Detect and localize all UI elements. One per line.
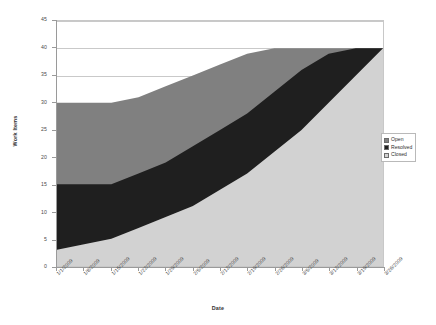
y-axis-tick-label: 45 xyxy=(7,17,47,22)
y-axis-tick-label: 15 xyxy=(7,182,47,187)
y-axis-tick xyxy=(52,75,56,76)
plot-area xyxy=(56,20,384,267)
y-axis-title: Work Items xyxy=(12,101,18,161)
y-axis-tick-label: 0 xyxy=(7,264,47,269)
chart-legend: OpenResolvedClosed xyxy=(381,133,416,162)
x-axis-tick-label: 3/26/2009 xyxy=(383,255,404,276)
legend-swatch-icon xyxy=(384,145,389,150)
y-axis-tick xyxy=(52,212,56,213)
y-axis-tick xyxy=(52,240,56,241)
legend-item-label: Open xyxy=(391,137,403,142)
legend-item-label: Closed xyxy=(391,152,407,157)
y-axis-tick-label: 5 xyxy=(7,237,47,242)
y-axis-tick xyxy=(52,102,56,103)
legend-swatch-icon xyxy=(384,138,389,143)
legend-item[interactable]: Closed xyxy=(384,152,412,159)
legend-item[interactable]: Resolved xyxy=(384,144,412,151)
stacked-area-series xyxy=(57,21,383,266)
y-axis-tick xyxy=(52,20,56,21)
y-axis-tick-label: 35 xyxy=(7,72,47,77)
y-axis-line xyxy=(56,20,57,268)
x-axis-title: Date xyxy=(0,305,436,311)
y-axis-tick xyxy=(52,47,56,48)
y-axis-tick xyxy=(52,185,56,186)
legend-item-label: Resolved xyxy=(391,145,412,150)
legend-swatch-icon xyxy=(384,153,389,158)
y-axis-tick-label: 40 xyxy=(7,45,47,50)
y-axis-tick xyxy=(52,157,56,158)
y-axis-tick xyxy=(52,130,56,131)
y-axis-tick-label: 10 xyxy=(7,210,47,215)
legend-item[interactable]: Open xyxy=(384,137,412,144)
work-items-area-chart: 051015202530354045 1/1/20091/8/20091/15/… xyxy=(0,0,436,325)
